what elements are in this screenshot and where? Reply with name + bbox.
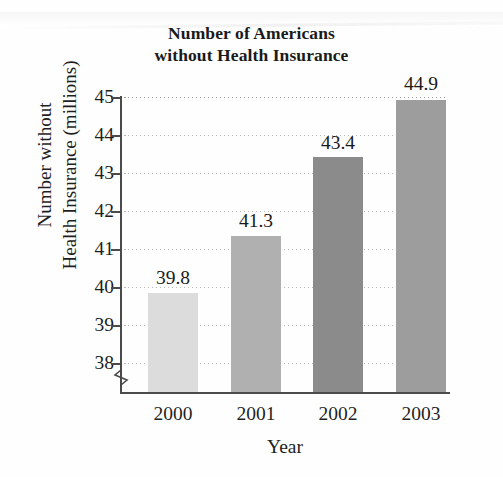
y-tick-label-40: 40 (80, 277, 114, 297)
x-axis-line (120, 392, 450, 394)
bar-value-label-2001: 41.3 (221, 211, 291, 231)
plot-area (120, 97, 448, 393)
y-tick-mark-43 (111, 173, 120, 175)
x-tick-label-2001: 2001 (216, 404, 296, 424)
y-tick-mark-39 (111, 325, 120, 327)
x-axis-title: Year (120, 436, 450, 458)
bar-2000 (148, 293, 198, 393)
x-tick-label-2000: 2000 (133, 404, 213, 424)
bar-2002 (313, 157, 363, 393)
y-tick-mark-41 (111, 249, 120, 251)
y-axis-title-line-1: Number without (32, 20, 57, 310)
y-tick-label-41: 41 (80, 239, 114, 259)
x-tick-label-2002: 2002 (298, 404, 378, 424)
y-axis-line (120, 96, 122, 394)
bar-value-label-2002: 43.4 (303, 133, 373, 153)
y-tick-label-43: 43 (80, 163, 114, 183)
x-tick-label-2003: 2003 (381, 404, 461, 424)
bar-2001 (231, 236, 281, 393)
y-tick-label-38: 38 (80, 353, 114, 373)
y-tick-label-44: 44 (80, 125, 114, 145)
y-tick-label-45: 45 (80, 87, 114, 107)
y-tick-mark-44 (111, 135, 120, 137)
y-tick-label-42: 42 (80, 201, 114, 221)
y-tick-mark-45 (111, 97, 120, 99)
bar-2003 (396, 100, 446, 393)
y-tick-label-39: 39 (80, 315, 114, 335)
bar-value-label-2003: 44.9 (386, 74, 456, 94)
y-axis-title-line-2: Health Insurance (millions) (57, 20, 82, 310)
gridline-45 (120, 97, 448, 98)
y-axis-title: Number without Health Insurance (million… (32, 20, 82, 310)
bar-value-label-2000: 39.8 (138, 268, 208, 288)
y-tick-mark-42 (111, 211, 120, 213)
chart-figure: Number of Americans without Health Insur… (0, 0, 503, 477)
y-tick-mark-40 (111, 287, 120, 289)
axis-break-icon (112, 362, 130, 388)
